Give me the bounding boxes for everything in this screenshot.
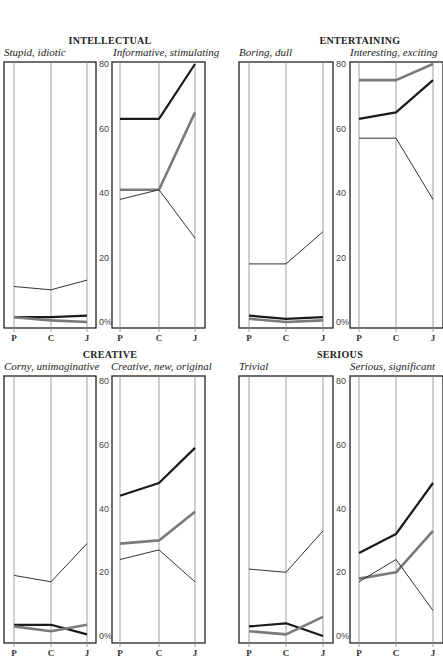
x-tick-label-right: C: [393, 333, 400, 343]
y-tick-label: 0%: [336, 631, 349, 641]
chart-canvas: 0%20406080PCJPCJ0%20406080PCJPCJ0%204060…: [0, 0, 443, 665]
y-tick-label: 0%: [99, 631, 112, 641]
x-tick-label-right: J: [193, 648, 198, 658]
series-line-thin-left: [14, 280, 87, 290]
x-tick-label-right: J: [431, 333, 436, 343]
x-tick-label-left: C: [283, 648, 290, 658]
x-tick-label-right: C: [156, 648, 163, 658]
y-tick-label: 40: [336, 188, 346, 198]
x-tick-label-left: P: [246, 648, 252, 658]
y-tick-label: 0%: [336, 317, 349, 327]
y-tick-label: 40: [99, 504, 109, 514]
x-tick-label-right: J: [193, 333, 198, 343]
series-line-thin-left: [14, 544, 87, 582]
x-tick-label-left: C: [48, 333, 55, 343]
y-tick-label: 40: [336, 504, 346, 514]
y-tick-label: 80: [336, 376, 346, 386]
x-tick-label-left: P: [11, 648, 17, 658]
x-tick-label-right: C: [156, 333, 163, 343]
x-tick-label-left: J: [321, 648, 326, 658]
x-tick-label-right: P: [356, 648, 362, 658]
intellectual-right-frame: [112, 62, 205, 328]
series-line-gray-right: [120, 112, 195, 189]
x-tick-label-left: C: [48, 648, 55, 658]
y-tick-label: 60: [336, 440, 346, 450]
serious-right-frame: [350, 376, 443, 643]
x-tick-label-right: P: [117, 333, 123, 343]
x-tick-label-left: P: [11, 333, 17, 343]
y-tick-label: 60: [336, 124, 346, 134]
x-tick-label-right: J: [431, 648, 436, 658]
y-tick-label: 80: [99, 59, 109, 69]
y-tick-label: 80: [336, 59, 346, 69]
x-tick-label-left: J: [85, 333, 90, 343]
y-tick-label: 0%: [99, 317, 112, 327]
creative-right-frame: [112, 376, 205, 643]
series-line-black-right: [120, 448, 195, 496]
entertaining-right-frame: [350, 62, 443, 328]
y-tick-label: 20: [336, 567, 346, 577]
x-tick-label-left: C: [283, 333, 290, 343]
x-tick-label-right: C: [393, 648, 400, 658]
series-line-gray-right: [120, 512, 195, 544]
y-tick-label: 20: [99, 253, 109, 263]
series-line-black-right: [120, 64, 195, 119]
x-tick-label-right: P: [356, 333, 362, 343]
series-line-thin-right: [120, 190, 195, 238]
y-tick-label: 20: [336, 253, 346, 263]
y-tick-label: 20: [99, 567, 109, 577]
y-tick-label: 60: [99, 440, 109, 450]
y-tick-label: 60: [99, 124, 109, 134]
x-tick-label-left: P: [246, 333, 252, 343]
y-tick-label: 80: [99, 376, 109, 386]
y-tick-label: 40: [99, 188, 109, 198]
x-tick-label-left: J: [321, 333, 326, 343]
x-tick-label-right: P: [117, 648, 123, 658]
series-line-thin-right: [120, 550, 195, 582]
x-tick-label-left: J: [85, 648, 90, 658]
creative-left-frame: [4, 376, 96, 643]
intellectual-left-frame: [4, 62, 96, 328]
